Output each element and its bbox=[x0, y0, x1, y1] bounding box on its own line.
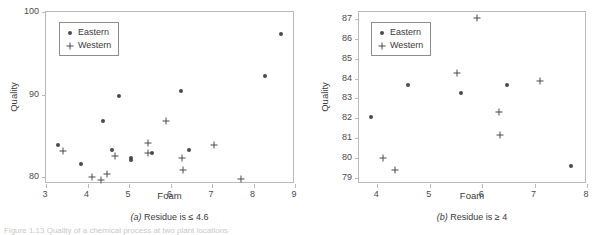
panel-subcaption-text: Residue is ≤ 4.6 bbox=[142, 212, 209, 222]
legend-item-label: Western bbox=[390, 41, 423, 50]
y-axis-tick-label: 100 bbox=[19, 7, 39, 16]
y-axis-tick bbox=[355, 59, 359, 60]
y-axis-tick-label: 83 bbox=[332, 93, 352, 102]
y-axis-tick-label: 80 bbox=[19, 172, 39, 181]
legend: EasternWestern bbox=[371, 22, 431, 56]
legend-item-label: Eastern bbox=[78, 28, 109, 37]
data-point-western bbox=[391, 167, 398, 174]
data-point-eastern bbox=[369, 115, 373, 119]
x-axis-tick bbox=[129, 184, 130, 188]
figure-container: EasternWestern 34567898090100FoamQuality… bbox=[0, 0, 610, 235]
data-point-eastern bbox=[459, 91, 463, 95]
panel-label: (b) bbox=[437, 212, 448, 222]
x-axis-tick bbox=[535, 184, 536, 188]
scatter-panel-b: EasternWestern 45678798081828384858687Fo… bbox=[310, 0, 610, 235]
x-axis-tick bbox=[171, 184, 172, 188]
y-axis-tick-label: 84 bbox=[332, 73, 352, 82]
panel-label: (a) bbox=[131, 212, 142, 222]
data-point-eastern bbox=[505, 83, 509, 87]
x-axis-tick-label: 8 bbox=[583, 190, 588, 199]
y-axis-tick bbox=[42, 12, 46, 13]
y-axis-tick bbox=[355, 79, 359, 80]
y-axis-tick bbox=[355, 19, 359, 20]
x-axis-tick bbox=[88, 184, 89, 188]
y-axis-tick-label: 86 bbox=[332, 33, 352, 42]
y-axis-tick bbox=[42, 177, 46, 178]
x-axis-tick-label: 5 bbox=[426, 190, 431, 199]
x-axis-title: Foam bbox=[460, 190, 484, 201]
y-axis-tick-label: 87 bbox=[332, 13, 352, 22]
y-axis-tick-label: 90 bbox=[19, 89, 39, 98]
marker-glyph bbox=[378, 42, 385, 49]
x-axis-tick bbox=[377, 184, 378, 188]
data-point-western bbox=[144, 140, 151, 147]
data-point-eastern bbox=[569, 164, 573, 168]
x-axis-tick-label: 5 bbox=[125, 190, 130, 199]
x-axis-tick bbox=[482, 184, 483, 188]
data-point-western bbox=[495, 109, 502, 116]
y-axis-title: Quality bbox=[8, 82, 19, 112]
data-point-western bbox=[88, 174, 95, 181]
y-axis-tick bbox=[355, 39, 359, 40]
data-point-western bbox=[496, 132, 503, 139]
data-point-western bbox=[238, 176, 245, 183]
data-point-western bbox=[163, 118, 170, 125]
data-point-western bbox=[473, 14, 480, 21]
data-point-western bbox=[98, 176, 105, 183]
data-point-eastern bbox=[117, 94, 121, 98]
x-axis-tick-label: 7 bbox=[531, 190, 536, 199]
plot-area-b: EasternWestern bbox=[358, 11, 586, 183]
x-axis-tick-label: 3 bbox=[42, 190, 47, 199]
legend-item-label: Eastern bbox=[390, 28, 421, 37]
x-axis-tick bbox=[212, 184, 213, 188]
panel-subcaption: (b) Residue is ≥ 4 bbox=[437, 212, 507, 222]
y-axis-tick-label: 85 bbox=[332, 53, 352, 62]
panel-subcaption-text: Residue is ≥ 4 bbox=[448, 212, 507, 222]
data-point-eastern bbox=[110, 148, 114, 152]
legend-item-eastern[interactable]: Eastern bbox=[64, 26, 111, 39]
x-axis-tick-label: 8 bbox=[250, 190, 255, 199]
x-axis-tick bbox=[587, 184, 588, 188]
data-point-eastern bbox=[150, 151, 154, 155]
data-point-eastern bbox=[263, 74, 267, 78]
data-point-western bbox=[112, 152, 119, 159]
data-point-eastern bbox=[406, 83, 410, 87]
data-point-western bbox=[536, 77, 543, 84]
y-axis-tick-label: 82 bbox=[332, 113, 352, 122]
x-axis-tick-label: 4 bbox=[374, 190, 379, 199]
x-axis-tick bbox=[254, 184, 255, 188]
x-axis-tick-label: 4 bbox=[84, 190, 89, 199]
data-point-eastern bbox=[79, 162, 83, 166]
data-point-eastern bbox=[129, 156, 133, 160]
panel-subcaption: (a) Residue is ≤ 4.6 bbox=[131, 212, 209, 222]
data-point-eastern bbox=[101, 119, 105, 123]
x-axis-tick bbox=[430, 184, 431, 188]
y-axis-title: Quality bbox=[319, 82, 330, 112]
data-point-western bbox=[211, 142, 218, 149]
x-axis-tick-label: 7 bbox=[208, 190, 213, 199]
marker-glyph bbox=[68, 31, 72, 35]
data-point-western bbox=[454, 70, 461, 77]
plot-area-a: EasternWestern bbox=[45, 11, 294, 183]
legend-item-western[interactable]: Western bbox=[376, 39, 423, 52]
data-point-eastern bbox=[179, 89, 183, 93]
y-axis-tick bbox=[42, 95, 46, 96]
plus-marker-icon bbox=[64, 40, 75, 51]
data-point-western bbox=[59, 147, 66, 154]
legend-item-label: Western bbox=[78, 41, 111, 50]
figure-caption: Figure 1.13 Quality of a chemical proces… bbox=[4, 226, 606, 235]
data-point-western bbox=[144, 149, 151, 156]
legend-item-western[interactable]: Western bbox=[64, 39, 111, 52]
data-point-eastern bbox=[187, 148, 191, 152]
legend-item-eastern[interactable]: Eastern bbox=[376, 26, 423, 39]
x-axis-tick bbox=[295, 184, 296, 188]
x-axis-tick bbox=[46, 184, 47, 188]
y-axis-tick bbox=[355, 98, 359, 99]
data-point-western bbox=[380, 155, 387, 162]
data-point-western bbox=[178, 155, 185, 162]
marker-glyph bbox=[66, 42, 73, 49]
y-axis-tick-label: 81 bbox=[332, 133, 352, 142]
data-point-western bbox=[179, 166, 186, 173]
plus-marker-icon bbox=[376, 40, 387, 51]
legend: EasternWestern bbox=[59, 22, 119, 56]
